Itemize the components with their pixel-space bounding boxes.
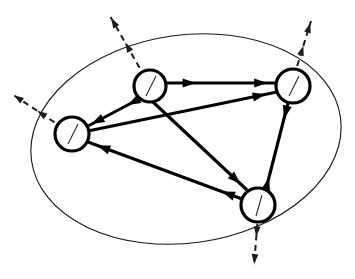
edge-layer [88, 78, 292, 200]
edge-bottom-to-left [88, 142, 242, 199]
node-left[interactable] [55, 117, 89, 151]
external-arrow-top-right-arrowhead-2 [304, 23, 310, 34]
edge-top-left-to-top-right-arrowhead-1 [183, 78, 196, 87]
external-arrow-left-arrowhead-2 [14, 95, 24, 103]
external-arrow-top-left-arrowhead-1 [125, 43, 133, 53]
node-bottom[interactable] [241, 188, 275, 222]
edge-top-left-to-top-right-arrowhead-2 [254, 78, 267, 87]
figure-container [0, 0, 355, 279]
external-arrow-top-left-arrowhead-2 [111, 18, 119, 28]
external-arrow-top-right-arrowhead-1 [297, 46, 303, 57]
edge-bottom-to-left-arrowhead-2 [97, 145, 111, 154]
edge-top-right-to-bottom-bidirectional-arrowhead-1 [283, 105, 292, 119]
edge-top-left-to-left-arrowhead-2 [92, 114, 106, 124]
node-top-left[interactable] [134, 70, 166, 102]
edge-bottom-to-left-arrowhead-1 [222, 192, 236, 201]
node-top-right[interactable] [276, 69, 310, 103]
diagram-canvas [0, 0, 355, 279]
external-arrow-bottom-arrowhead-2 [252, 254, 259, 264]
